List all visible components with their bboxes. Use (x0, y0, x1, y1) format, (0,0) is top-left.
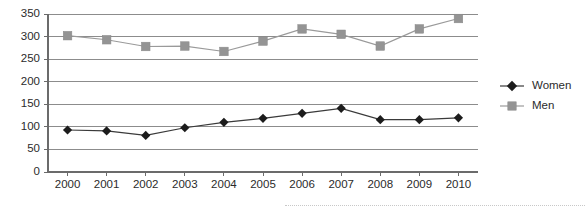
series-women (63, 104, 463, 140)
data-point-women-2010 (454, 113, 463, 122)
legend-marker-women-diamond (507, 81, 517, 91)
data-point-men-2001 (102, 35, 111, 44)
gridlines (48, 14, 478, 149)
data-point-men-2003 (181, 42, 190, 51)
y-tick-label-150: 150 (21, 97, 40, 109)
legend-marker-men-square (508, 102, 516, 110)
data-point-men-2010 (454, 14, 463, 23)
chart-legend: Women Men (500, 79, 571, 111)
x-tick-label-2009: 2009 (407, 178, 433, 190)
data-point-men-2009 (415, 25, 424, 34)
y-tick-label-250: 250 (21, 52, 40, 64)
y-tick-label-300: 300 (21, 30, 40, 42)
legend-item-men[interactable]: Men (500, 99, 554, 111)
data-point-men-2008 (376, 42, 385, 51)
series-men (63, 14, 463, 56)
data-point-men-2007 (337, 30, 346, 39)
legend-item-women[interactable]: Women (500, 79, 571, 91)
data-point-women-2009 (415, 115, 424, 124)
data-point-men-2004 (220, 47, 229, 56)
data-point-men-2000 (63, 31, 72, 40)
data-point-men-2005 (259, 37, 268, 46)
data-point-women-2008 (376, 115, 385, 124)
series-line-men (68, 19, 459, 52)
y-tick-label-100: 100 (21, 120, 40, 132)
data-point-women-2003 (180, 123, 189, 132)
y-tick-label-350: 350 (21, 7, 40, 19)
line-chart: 350 300 250 200 150 100 50 0 20002001200… (0, 0, 585, 207)
legend-label-women: Women (532, 79, 571, 91)
data-point-women-2002 (141, 131, 150, 140)
x-tick-label-2005: 2005 (250, 178, 276, 190)
chart-figure: 350 300 250 200 150 100 50 0 20002001200… (0, 0, 585, 207)
x-tick-label-2008: 2008 (367, 178, 393, 190)
data-point-women-2006 (297, 109, 306, 118)
y-tick-label-50: 50 (27, 142, 40, 154)
x-tick-label-2000: 2000 (55, 178, 81, 190)
data-point-women-2007 (337, 104, 346, 113)
data-point-men-2006 (298, 25, 307, 34)
y-tick-label-0: 0 (34, 165, 40, 177)
y-tick-label-200: 200 (21, 75, 40, 87)
bottom-dotted-rule (285, 203, 585, 206)
x-tick-label-2006: 2006 (289, 178, 315, 190)
y-axis: 350 300 250 200 150 100 50 0 (21, 7, 48, 177)
x-tick-label-2007: 2007 (328, 178, 354, 190)
x-tick-label-2001: 2001 (94, 178, 120, 190)
x-tick-label-2003: 2003 (172, 178, 198, 190)
data-point-men-2002 (141, 42, 150, 51)
x-tick-label-2004: 2004 (211, 178, 237, 190)
data-point-women-2001 (102, 126, 111, 135)
data-point-women-2004 (219, 118, 228, 127)
data-point-women-2005 (258, 114, 267, 123)
x-tick-label-2002: 2002 (133, 178, 159, 190)
x-tick-label-2010: 2010 (446, 178, 472, 190)
x-axis: 2000200120022003200420052006200720082009… (48, 172, 478, 190)
legend-label-men: Men (532, 99, 554, 111)
